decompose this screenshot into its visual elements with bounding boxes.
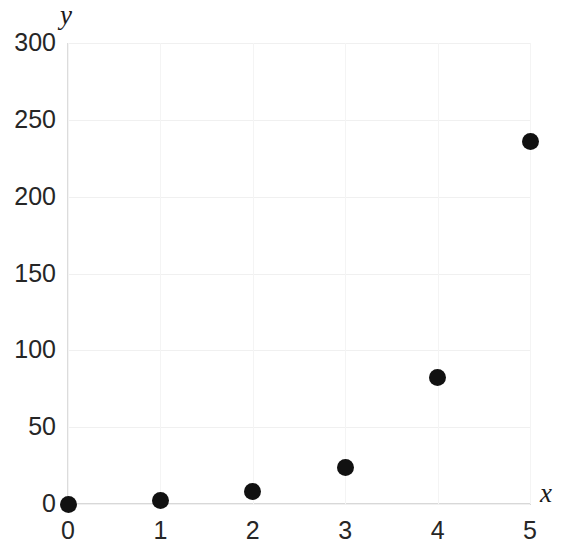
data-point bbox=[152, 492, 169, 509]
gridline-horizontal bbox=[68, 197, 530, 198]
plot-area bbox=[68, 43, 530, 504]
data-point bbox=[337, 459, 354, 476]
data-point bbox=[429, 369, 446, 386]
y-axis-tick-label: 50 bbox=[0, 414, 56, 439]
y-axis-title: y bbox=[60, 2, 72, 29]
y-axis-tick-label: 100 bbox=[0, 337, 56, 362]
data-point bbox=[522, 133, 539, 150]
y-axis-tick-label: 250 bbox=[0, 107, 56, 132]
x-axis-tick-label: 4 bbox=[418, 518, 458, 543]
x-axis-tick-label: 0 bbox=[48, 518, 88, 543]
gridline-vertical bbox=[438, 43, 439, 504]
x-axis-tick-label: 2 bbox=[233, 518, 273, 543]
x-axis-tick-label: 5 bbox=[510, 518, 550, 543]
gridline-vertical bbox=[530, 43, 531, 504]
gridline-vertical bbox=[160, 43, 161, 504]
gridline-vertical bbox=[68, 43, 69, 504]
gridline-horizontal bbox=[68, 504, 530, 505]
scatter-chart-figure: y x 050100150200250300 012345 bbox=[0, 0, 565, 549]
gridline-horizontal bbox=[68, 120, 530, 121]
gridline-horizontal bbox=[68, 427, 530, 428]
gridline-horizontal bbox=[68, 350, 530, 351]
gridline-horizontal bbox=[68, 274, 530, 275]
y-axis-tick-label: 150 bbox=[0, 261, 56, 286]
y-axis-tick-label: 300 bbox=[0, 30, 56, 55]
x-axis-title: x bbox=[540, 480, 552, 507]
data-point bbox=[60, 496, 77, 513]
x-axis-tick-label: 3 bbox=[325, 518, 365, 543]
x-axis-tick-label: 1 bbox=[140, 518, 180, 543]
gridline-horizontal bbox=[68, 43, 530, 44]
data-point bbox=[244, 483, 261, 500]
y-axis-tick-label: 200 bbox=[0, 184, 56, 209]
y-axis-tick-label: 0 bbox=[0, 491, 56, 516]
gridline-vertical bbox=[253, 43, 254, 504]
gridline-vertical bbox=[345, 43, 346, 504]
